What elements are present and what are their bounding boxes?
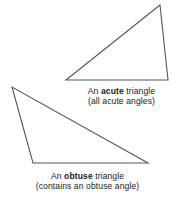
triangle-types-figure: An acute triangle (all acute angles) An …	[0, 0, 175, 209]
obtuse-caption-suffix: triangle	[93, 171, 124, 181]
acute-caption-prefix: An	[88, 86, 101, 96]
obtuse-caption-prefix: An	[51, 171, 64, 181]
obtuse-triangle-caption: An obtuse triangle (contains an obtuse a…	[0, 171, 175, 191]
acute-triangle	[66, 5, 168, 80]
acute-caption-suffix: triangle	[124, 86, 155, 96]
obtuse-caption-keyword: obtuse	[64, 171, 93, 181]
acute-triangle-caption: An acute triangle (all acute angles)	[68, 86, 175, 106]
obtuse-caption-line-1: An obtuse triangle	[0, 171, 175, 181]
obtuse-caption-line-2: (contains an obtuse angle)	[0, 181, 175, 191]
acute-caption-keyword: acute	[101, 86, 124, 96]
acute-caption-line-2: (all acute angles)	[68, 96, 175, 106]
acute-caption-line-1: An acute triangle	[68, 86, 175, 96]
